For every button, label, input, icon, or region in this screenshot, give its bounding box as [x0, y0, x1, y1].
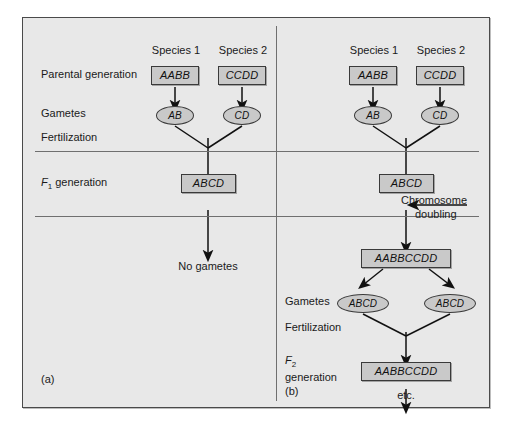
panel-a-outcome-label: No gametes [158, 260, 258, 272]
panel-a-gamete-1: AB [156, 106, 194, 125]
divider-line-lower [35, 216, 479, 217]
panel-b-parent-box-2: CCDD [416, 66, 464, 85]
panel-b-outcome-label: etc. [366, 389, 446, 401]
panel-a-gametes-label: Gametes [41, 107, 86, 119]
panel-a-parental-generation-label: Parental generation [41, 68, 137, 80]
panel-divider-vertical [276, 26, 277, 401]
panel-a-parent-box-1: AABB [151, 66, 199, 85]
panel-b-gametes-label: Gametes [285, 295, 330, 307]
panel-a-tag: (a) [41, 373, 54, 385]
panel-b-f2-generation-label: F2generation [285, 354, 337, 384]
panel-b-gamete-1: AB [354, 106, 392, 125]
panel-a-parent-box-2: CCDD [218, 66, 266, 85]
panel-b-f2-zygote-box: AABBCCDD [361, 362, 451, 381]
panel-a-f1-prefix: F [41, 176, 48, 188]
panel-a-f1-hybrid-box: ABCD [181, 174, 236, 193]
panel-a-species1-header: Species 1 [140, 44, 212, 56]
panel-b-gamete-second-1: ABCD [337, 294, 389, 313]
panel-b-fertilization-label: Fertilization [285, 321, 341, 333]
chromosome-doubling-annotation-line1: Chromosome [401, 194, 489, 206]
panel-b-tag: (b) [285, 385, 298, 397]
panel-b-f1-hybrid-box: ABCD [379, 174, 434, 193]
panel-a-f1-generation-label: F1 generation [41, 176, 107, 191]
panel-b-doubled-box: AABBCCDD [361, 249, 451, 268]
panel-b-species1-header: Species 1 [338, 44, 410, 56]
panel-a-gamete-2: CD [223, 106, 261, 125]
panel-b-f2-prefix: F [285, 354, 292, 366]
panel-b-f2-suffix: generation [285, 371, 337, 383]
chromosome-doubling-annotation-line2: doubling [415, 208, 503, 220]
panel-b-f2-subscript: 2 [292, 360, 296, 369]
panel-b-gamete-2: CD [421, 106, 459, 125]
panel-a-fertilization-label: Fertilization [41, 131, 97, 143]
panel-a-f1-suffix: generation [52, 176, 107, 188]
panel-b-species2-header: Species 2 [405, 44, 477, 56]
divider-line-upper [35, 151, 479, 152]
panel-a-species2-header: Species 2 [207, 44, 279, 56]
panel-b-gamete-second-2: ABCD [424, 294, 476, 313]
figure-panel: Species 1 Species 2 Parental generation … [22, 17, 490, 408]
panel-b-parent-box-1: AABB [349, 66, 397, 85]
